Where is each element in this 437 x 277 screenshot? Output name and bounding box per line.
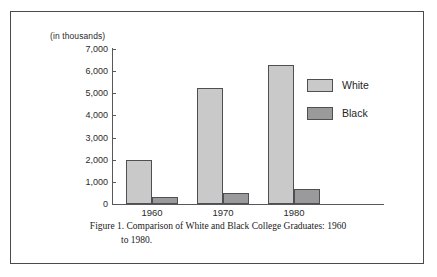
chart-legend: WhiteBlack [307, 78, 369, 134]
figure-container: (in thousands) 01,0002,0003,0004,0005,00… [10, 11, 424, 264]
legend-item-black: Black [307, 106, 369, 120]
bar-white-1980 [268, 65, 294, 205]
x-tick-label-1980: 1980 [262, 207, 326, 218]
caption-line-1: Figure 1. Comparison of White and Black … [90, 221, 346, 231]
bar-white-1960 [126, 160, 152, 204]
x-tick-label-1960: 1960 [120, 207, 184, 218]
caption-line-2: to 1980. [87, 234, 425, 248]
bar-black-1960 [152, 197, 178, 204]
x-tick-label-1970: 1970 [191, 207, 255, 218]
legend-label-white: White [342, 79, 369, 91]
chart-plot-area: (in thousands) 01,0002,0003,0004,0005,00… [11, 12, 425, 217]
bar-black-1970 [223, 193, 249, 204]
legend-item-white: White [307, 78, 369, 92]
bar-white-1970 [197, 88, 223, 204]
legend-label-black: Black [342, 107, 368, 119]
legend-swatch-white [307, 79, 333, 92]
bar-black-1980 [294, 189, 320, 204]
legend-swatch-black [307, 107, 333, 120]
figure-caption: Figure 1. Comparison of White and Black … [11, 220, 425, 248]
